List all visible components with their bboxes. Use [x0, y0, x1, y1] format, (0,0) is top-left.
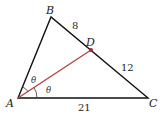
label-b: B	[45, 4, 54, 17]
label-a: A	[5, 97, 14, 110]
label-d: D	[85, 36, 95, 49]
length-dc: 12	[121, 62, 134, 73]
angle-arc-upper	[23, 87, 29, 92]
label-c: C	[149, 97, 158, 110]
length-bd: 8	[72, 20, 78, 31]
theta-upper: θ	[31, 75, 36, 85]
bisector-ad	[18, 50, 91, 98]
angle-arc-lower	[34, 88, 37, 99]
theta-lower: θ	[46, 85, 51, 95]
length-ac: 21	[78, 102, 91, 113]
triangle-diagram: A B C D 8 12 21 θ θ	[0, 0, 165, 115]
